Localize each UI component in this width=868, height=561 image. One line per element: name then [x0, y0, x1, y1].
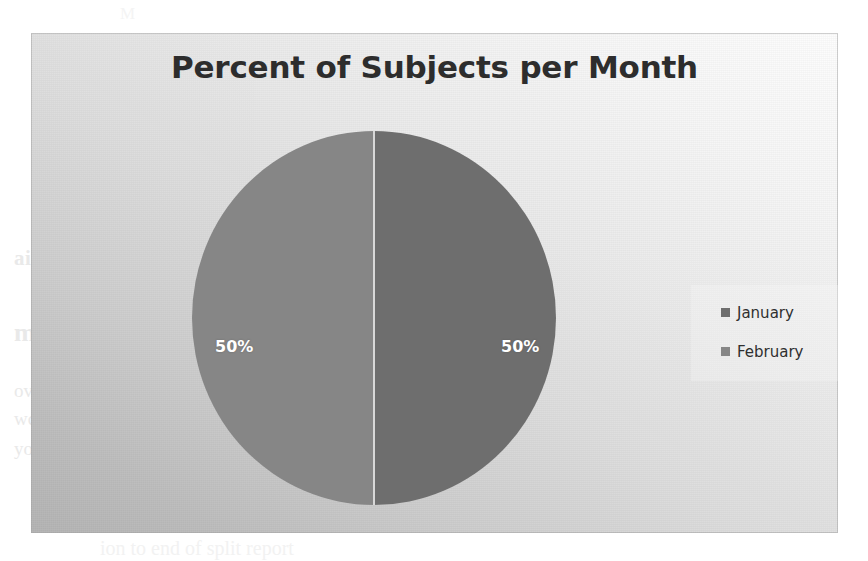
pie-slice-january[interactable] [374, 131, 556, 505]
legend-label-january: January [737, 304, 794, 322]
legend-label-february: February [737, 343, 803, 361]
legend-swatch-january-icon [721, 308, 730, 317]
chart-legend: January February [691, 285, 838, 381]
legend-item-february[interactable]: February [721, 332, 838, 371]
legend-swatch-february-icon [721, 347, 730, 356]
chart-frame: Percent of Subjects per Month 50% 50% Ja… [31, 33, 838, 533]
pie-chart-graphic [31, 33, 838, 533]
pie-data-label-february: 50% [215, 337, 253, 356]
page-ghost-text-g: M [120, 4, 135, 24]
pie-slice-february[interactable] [192, 131, 374, 505]
chart-title: Percent of Subjects per Month [31, 49, 838, 85]
pie-data-label-january: 50% [501, 337, 539, 356]
page-ghost-text-f: ion to end of split report [100, 537, 294, 560]
legend-item-january[interactable]: January [721, 293, 838, 332]
